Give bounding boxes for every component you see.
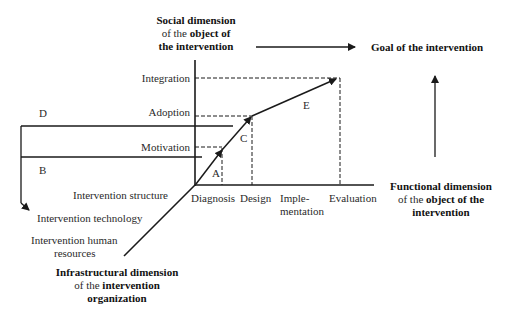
item-intervention-technology: Intervention technology <box>37 212 142 225</box>
phase-evaluation: Evaluation <box>329 192 377 205</box>
label-b: B <box>39 164 46 177</box>
social-title-normal: of the <box>162 27 190 39</box>
label-e: E <box>303 99 310 112</box>
functional-title-bold: object of the <box>426 193 484 205</box>
level-adoption: Adoption <box>120 106 190 119</box>
infrastructural-title-line2: of the intervention <box>52 279 182 292</box>
level-motivation: Motivation <box>120 141 190 154</box>
social-dimension-title: Social dimension of the object of the in… <box>150 14 242 53</box>
social-title-line3: the intervention <box>150 40 242 53</box>
social-title-line1: Social dimension <box>150 14 242 27</box>
functional-dimension-title: Functional dimension of the object of th… <box>380 180 502 219</box>
item-intervention-resources: resources <box>54 247 96 260</box>
item-intervention-human: Intervention human <box>31 234 117 247</box>
phase-implementation-2: mentation <box>280 205 324 218</box>
goal-label: Goal of the intervention <box>371 41 483 54</box>
infrastructural-title-bold: intervention <box>102 279 159 291</box>
functional-title-line3: intervention <box>380 206 502 219</box>
label-d: D <box>39 107 47 120</box>
label-a: A <box>212 167 220 180</box>
arrow-e <box>252 79 336 116</box>
functional-title-normal: of the <box>398 193 426 205</box>
infrastructural-title-line1: Infrastructural dimension <box>52 266 182 279</box>
functional-title-line2: of the object of the <box>380 193 502 206</box>
left-bracket-arrow <box>21 203 29 210</box>
phase-implementation-1: Imple- <box>280 192 309 205</box>
label-c: C <box>240 132 247 145</box>
phase-design: Design <box>240 192 271 205</box>
social-title-line2: of the object of <box>150 27 242 40</box>
infrastructural-title-line3: organization <box>52 292 182 305</box>
item-intervention-structure: Intervention structure <box>73 189 168 202</box>
level-integration: Integration <box>120 72 190 85</box>
social-title-bold: object of <box>190 27 231 39</box>
phase-diagnosis: Diagnosis <box>191 192 235 205</box>
infrastructural-title-normal: of the <box>74 279 102 291</box>
infrastructural-dimension-title: Infrastructural dimension of the interve… <box>52 266 182 305</box>
functional-title-line1: Functional dimension <box>380 180 502 193</box>
